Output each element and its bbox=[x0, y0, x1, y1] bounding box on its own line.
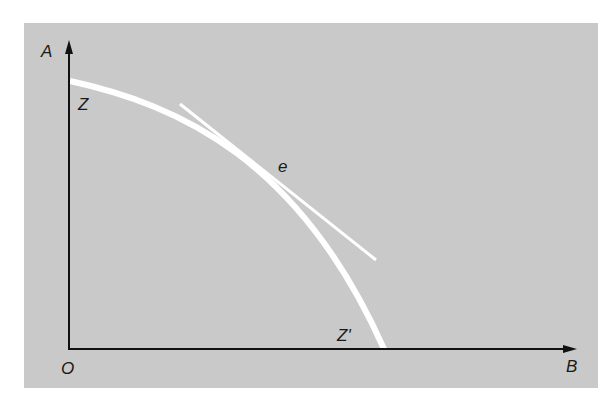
curve-end-label: Z' bbox=[336, 326, 351, 345]
tangent-point-label: e bbox=[278, 157, 287, 176]
x-axis-arrow-icon bbox=[563, 345, 577, 353]
diagram-canvas: A Z e Z' O B bbox=[0, 0, 616, 403]
curve-start-label: Z bbox=[77, 95, 89, 114]
frontier-curve bbox=[70, 81, 384, 349]
tangent-line bbox=[180, 104, 376, 260]
x-axis-label: B bbox=[566, 357, 577, 376]
y-axis-arrow-icon bbox=[65, 40, 73, 54]
y-axis-label: A bbox=[40, 42, 52, 61]
origin-label: O bbox=[61, 359, 74, 378]
